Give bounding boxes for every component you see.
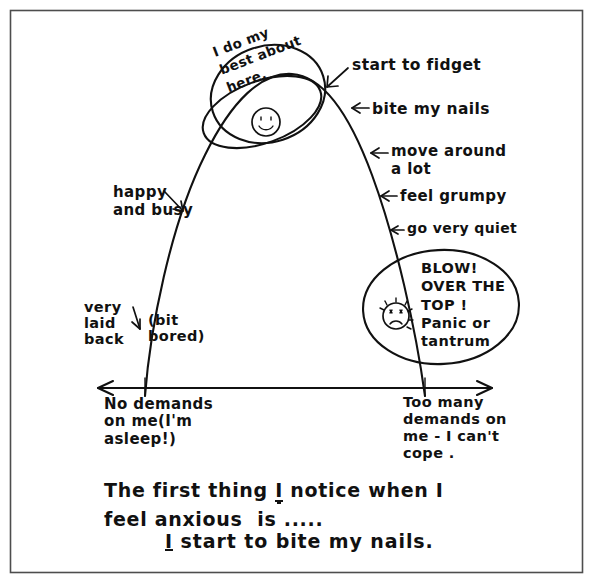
laidback-line-3: back <box>84 331 124 347</box>
label-very-laid-back: very laid back <box>84 300 124 348</box>
arrow-move-around <box>371 148 388 158</box>
label-bit-bored: (bit bored) <box>148 313 205 345</box>
blow-line-1: BLOW! <box>421 260 478 276</box>
axis-label-left: No demands on me(I'm asleep!) <box>104 396 213 448</box>
blow-line-3: TOP ! <box>421 297 468 313</box>
laidback-line-2: laid <box>84 315 116 331</box>
bored-line-2: bored) <box>148 328 205 344</box>
axis-left-line-1: No demands <box>104 395 213 413</box>
laidback-line-1: very <box>84 299 122 315</box>
label-start-to-fidget: start to fidget <box>352 57 481 74</box>
axis-right-line-2: demands on <box>403 411 507 427</box>
blow-ellipse-text: BLOW! OVER THE TOP ! Panic or tantrum <box>421 259 505 350</box>
prompt-line2: feel anxious is ..... <box>104 508 323 530</box>
smiley-face-icon <box>252 108 280 136</box>
axis-left-line-2: on me(I'm <box>104 412 192 430</box>
prompt-emphasis-i: I <box>275 481 283 502</box>
label-go-very-quiet: go very quiet <box>407 221 517 237</box>
answer-sentence: I start to bite my nails. <box>165 531 434 552</box>
label-move-around-a-lot: move around a lot <box>391 142 506 178</box>
axis-left-line-3: asleep!) <box>104 430 176 448</box>
answer-rest: start to bite my nails. <box>173 530 434 552</box>
label-bite-my-nails: bite my nails <box>372 101 490 118</box>
blow-line-4: Panic or <box>421 315 490 331</box>
prompt-line1-part2: notice when I <box>283 479 444 501</box>
blow-line-2: OVER THE <box>421 278 505 294</box>
prompt-sentence: The first thing I notice when I feel anx… <box>104 476 444 535</box>
axis-label-right: Too many demands on me - I can't cope . <box>403 394 507 462</box>
happy-line-1: happy <box>113 183 167 201</box>
blow-line-5: tantrum <box>421 333 490 349</box>
prompt-line1-part1: The first thing <box>104 479 275 501</box>
label-happy-and-busy: happy and busy <box>113 184 193 219</box>
axis-right-line-3: me - I can't <box>403 428 499 444</box>
axis-right-line-1: Too many <box>403 394 484 410</box>
answer-emphasis-i: I <box>165 530 173 552</box>
arrow-feel-grumpy <box>381 191 397 201</box>
worksheet-sheet: I do my best about here. start to fidget… <box>0 0 602 585</box>
arrow-go-very-quiet <box>391 226 404 234</box>
label-feel-grumpy: feel grumpy <box>400 188 507 205</box>
bored-line-1: (bit <box>148 312 179 328</box>
arrow-bite-my-nails <box>352 103 369 113</box>
happy-line-2: and busy <box>113 201 193 219</box>
axis-right-line-4: cope . <box>403 445 455 461</box>
arrow-start-to-fidget <box>327 68 348 87</box>
arrow-very-laid-back <box>132 307 140 329</box>
demand-axis <box>98 381 492 395</box>
